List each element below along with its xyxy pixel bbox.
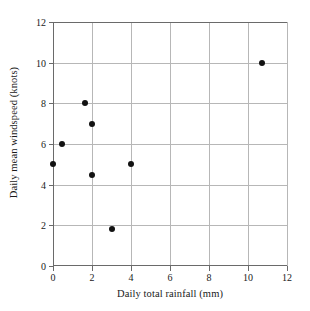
data-point (109, 226, 115, 232)
x-axis-tick (131, 266, 132, 271)
data-point (50, 161, 56, 167)
gridline-vertical (248, 22, 249, 266)
y-axis-tick (49, 144, 54, 145)
data-point (82, 100, 88, 106)
gridline-vertical (92, 22, 93, 266)
data-point (128, 161, 134, 167)
gridline-vertical (131, 22, 132, 266)
plot-area: 024681012024681012 (53, 22, 287, 266)
x-axis-tick-label: 4 (129, 272, 134, 283)
plot-frame-top (53, 22, 287, 23)
x-axis-tick-label: 0 (51, 272, 56, 283)
y-axis-tick-label: 0 (41, 261, 46, 272)
scatter-plot-figure: Daily mean windspeed (knots) 02468101202… (0, 0, 310, 311)
x-axis-tick-label: 10 (243, 272, 253, 283)
gridline-vertical (170, 22, 171, 266)
y-axis-tick-label: 10 (36, 58, 46, 69)
y-axis-tick (49, 185, 54, 186)
y-axis-tick (49, 63, 54, 64)
y-axis-tick (49, 103, 54, 104)
y-axis-tick-label: 4 (41, 180, 46, 191)
y-axis-tick (49, 225, 54, 226)
y-axis-tick-label: 8 (41, 98, 46, 109)
x-axis-tick (53, 266, 54, 271)
gridline-vertical (209, 22, 210, 266)
x-axis-tick-label: 8 (207, 272, 212, 283)
y-axis-tick-label: 12 (36, 17, 46, 28)
y-axis-tick-label: 2 (41, 220, 46, 231)
y-axis-tick (49, 22, 54, 23)
x-axis-tick (248, 266, 249, 271)
y-axis-tick-label: 6 (41, 139, 46, 150)
x-axis-tick (209, 266, 210, 271)
gridline-vertical (287, 22, 288, 266)
y-axis-label: Daily mean windspeed (knots) (0, 0, 26, 311)
x-axis-tick (92, 266, 93, 271)
x-axis-tick-label: 2 (90, 272, 95, 283)
data-point (59, 141, 65, 147)
x-axis-tick (287, 266, 288, 271)
x-axis-label: Daily total rainfall (mm) (53, 288, 287, 299)
y-axis-label-text: Daily mean windspeed (knots) (8, 67, 19, 198)
x-axis-tick-label: 12 (282, 272, 292, 283)
x-axis-tick (170, 266, 171, 271)
data-point (89, 172, 95, 178)
x-axis-tick-label: 6 (168, 272, 173, 283)
data-point (89, 121, 95, 127)
data-point (259, 60, 265, 66)
